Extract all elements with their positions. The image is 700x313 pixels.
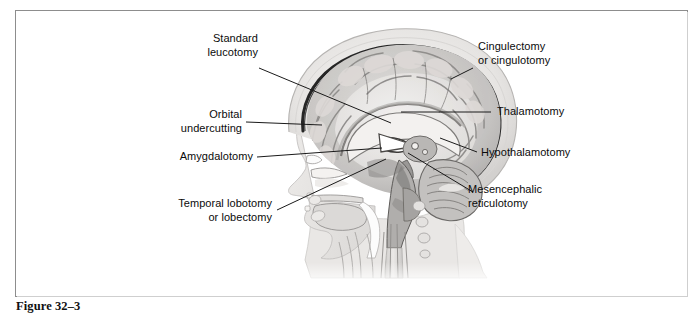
label-hypothalamotomy: Hypothalamotomy (481, 146, 587, 160)
figure-caption: Figure 32–3 (16, 299, 80, 313)
label-standard-leucotomy: Standard leucotomy (196, 32, 258, 59)
label-mesencephalic-reticulotomy: Mesencephalic reticulotomy (468, 183, 560, 210)
label-amygdalotomy: Amygdalotomy (167, 150, 253, 164)
label-orbital-undercutting: Orbital undercutting (166, 108, 242, 135)
label-cingulectomy: Cingulectomy or cingulotomy (478, 40, 570, 67)
label-temporal-lobotomy: Temporal lobotomy or lobectomy (160, 197, 272, 224)
label-thalamotomy: Thalamotomy (497, 105, 579, 119)
anatomical-illustration (15, 10, 688, 297)
